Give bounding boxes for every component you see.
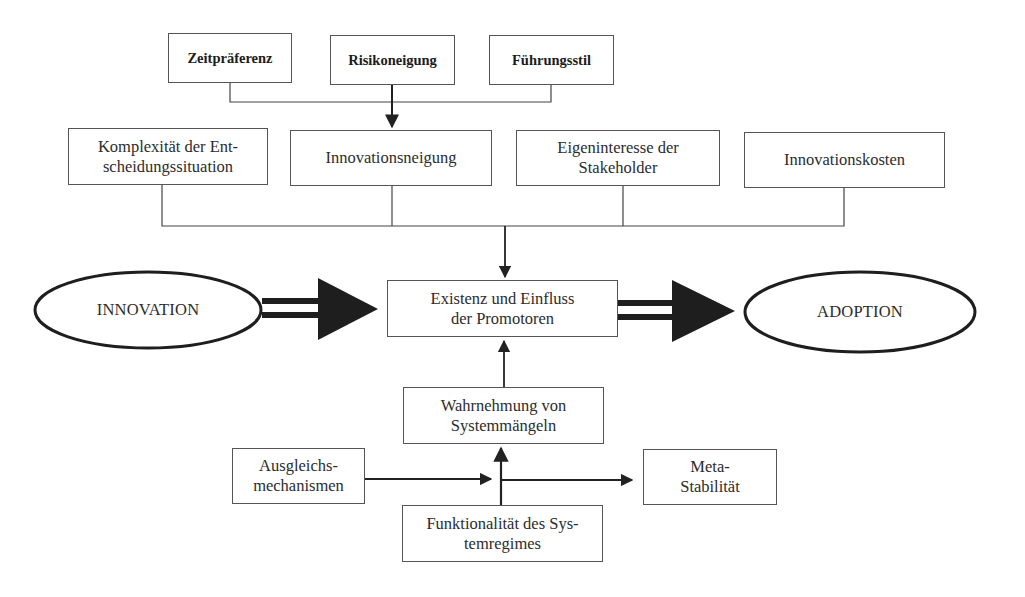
label-innovationskosten: Innovationskosten [784, 150, 905, 170]
thick-arrow-promotoren-to-adoption [618, 280, 735, 342]
ellipse-innovation: INNOVATION [35, 272, 261, 348]
label-promotoren: Existenz und Einfluss der Promotoren [431, 289, 575, 329]
box-innovationsneigung: Innovationsneigung [290, 130, 492, 186]
box-komplexitaet: Komplexität der Ent- scheidungssituation [68, 128, 268, 185]
label-innovationsneigung: Innovationsneigung [325, 148, 456, 168]
box-zeitpraeferenz: Zeitpräferenz [168, 33, 292, 83]
box-metastabilitaet: Meta- Stabilität [643, 449, 777, 505]
label-metastabilitaet: Meta- Stabilität [680, 457, 740, 497]
thick-arrow-innovation-to-promotoren [262, 278, 378, 340]
label-risikoneigung: Risikoneigung [348, 50, 437, 70]
box-funktionalitaet: Funktionalität des Sys- temregimes [402, 505, 603, 562]
ellipse-adoption: ADOPTION [745, 272, 975, 352]
box-risikoneigung: Risikoneigung [330, 35, 455, 85]
box-ausgleich: Ausgleichs- mechanismen [232, 448, 365, 504]
label-fuehrungsstil: Führungsstil [512, 50, 591, 70]
box-eigeninteresse: Eigeninteresse der Stakeholder [516, 130, 720, 186]
diagram-canvas: Zeitpräferenz Risikoneigung Führungsstil… [0, 0, 1025, 597]
label-eigeninteresse: Eigeninteresse der Stakeholder [557, 138, 678, 178]
label-zeitpraeferenz: Zeitpräferenz [187, 48, 272, 68]
box-wahrnehmung: Wahrnehmung von Systemmängeln [403, 387, 604, 444]
top-factors-connector [230, 82, 551, 102]
label-adoption: ADOPTION [817, 302, 903, 322]
label-funktionalitaet: Funktionalität des Sys- temregimes [426, 514, 578, 554]
label-wahrnehmung: Wahrnehmung von Systemmängeln [441, 396, 567, 436]
label-ausgleich: Ausgleichs- mechanismen [253, 456, 344, 496]
label-komplexitaet: Komplexität der Ent- scheidungssituation [98, 137, 238, 177]
label-innovation: INNOVATION [97, 300, 200, 320]
box-innovationskosten: Innovationskosten [744, 132, 945, 188]
box-fuehrungsstil: Führungsstil [489, 35, 614, 85]
influence-factors-connector [162, 185, 844, 226]
box-promotoren: Existenz und Einfluss der Promotoren [387, 280, 618, 337]
